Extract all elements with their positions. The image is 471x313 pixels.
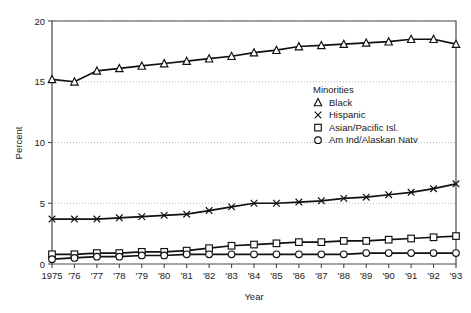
data-point-am-ind-alaskan-natv-11 [296, 251, 303, 258]
x-tick-label-9: '84 [248, 270, 260, 281]
x-tick-label-17: '92 [427, 270, 439, 281]
x-tick-label-16: '91 [405, 270, 417, 281]
data-point-asian-pacific-isl-13 [340, 238, 347, 245]
x-tick-label-14: '89 [360, 270, 372, 281]
x-tick-label-10: '85 [270, 270, 282, 281]
data-point-hispanic-legend [315, 112, 322, 119]
data-point-asian-pacific-isl-legend [315, 124, 322, 131]
data-point-am-ind-alaskan-natv-9 [251, 251, 258, 258]
x-tick-label-13: '88 [338, 270, 350, 281]
chart-figure: 05101520 1975'76'77'78'79'80'81'82'83'84… [0, 0, 471, 313]
data-point-am-ind-alaskan-natv-14 [363, 250, 370, 257]
x-tick-label-4: '79 [136, 270, 148, 281]
square-icon [315, 124, 322, 131]
x-tick-label-11: '86 [293, 270, 305, 281]
data-point-asian-pacific-isl-11 [296, 239, 303, 246]
x-tick-label-7: '82 [203, 270, 215, 281]
x-tick-label-18: '93 [450, 270, 462, 281]
legend-item-black[interactable]: Black [314, 97, 352, 108]
data-point-am-ind-alaskan-natv-17 [430, 250, 437, 257]
y-axis-title: Percent [13, 126, 24, 159]
data-point-am-ind-alaskan-natv-15 [385, 250, 392, 257]
series-black [48, 35, 459, 85]
legend-label-black: Black [329, 97, 352, 108]
data-point-am-ind-alaskan-natv-1 [71, 255, 78, 262]
legend-label-hispanic: Hispanic [329, 109, 366, 120]
x-tick-label-6: '81 [180, 270, 192, 281]
data-point-am-ind-alaskan-natv-12 [318, 251, 325, 258]
x-tick-label-12: '87 [315, 270, 327, 281]
y-tick-label-20: 20 [34, 16, 45, 27]
legend-title: Minorities [313, 84, 354, 95]
data-point-am-ind-alaskan-natv-2 [94, 253, 101, 260]
chart-legend: MinoritiesBlackHispanicAsian/Pacific Isl… [313, 84, 418, 145]
data-point-asian-pacific-isl-8 [228, 242, 235, 249]
data-point-asian-pacific-isl-17 [430, 234, 437, 241]
data-point-asian-pacific-isl-10 [273, 240, 280, 247]
x-tick-label-1: '76 [68, 270, 80, 281]
data-point-am-ind-alaskan-natv-0 [49, 256, 56, 263]
y-tick-label-10: 10 [34, 137, 45, 148]
data-point-am-ind-alaskan-natv-10 [273, 251, 280, 258]
series-line-hispanic [52, 184, 456, 219]
y-tick-label-15: 15 [34, 76, 45, 87]
data-point-am-ind-alaskan-natv-13 [340, 251, 347, 258]
triangle-icon [314, 99, 321, 106]
data-point-asian-pacific-isl-9 [251, 241, 258, 248]
data-point-asian-pacific-isl-18 [453, 233, 460, 240]
data-point-black-legend [314, 99, 321, 106]
series-line-black [52, 39, 456, 82]
data-point-asian-pacific-isl-15 [385, 236, 392, 243]
x-tick-label-3: '78 [113, 270, 125, 281]
data-point-asian-pacific-isl-16 [408, 235, 415, 242]
circle-icon [315, 137, 322, 144]
x-icon [315, 112, 322, 119]
data-point-am-ind-alaskan-natv-6 [183, 251, 190, 258]
data-point-am-ind-alaskan-natv-5 [161, 252, 168, 259]
x-tick-label-8: '83 [225, 270, 237, 281]
data-point-am-ind-alaskan-natv-8 [228, 251, 235, 258]
legend-label-am-ind-alaskan-natv: Am Ind/Alaskan Natv [329, 134, 418, 145]
x-axis-title: Year [244, 291, 263, 302]
legend-item-asian-pacific-isl[interactable]: Asian/Pacific Isl. [315, 122, 398, 133]
data-point-am-ind-alaskan-natv-4 [138, 252, 145, 259]
data-point-am-ind-alaskan-natv-18 [453, 250, 460, 257]
x-axis-ticks: 1975'76'77'78'79'80'81'82'83'84'85'86'87… [41, 264, 462, 281]
y-tick-label-5: 5 [40, 198, 45, 209]
data-point-asian-pacific-isl-14 [363, 238, 370, 245]
percent-minorities-line-chart: 05101520 1975'76'77'78'79'80'81'82'83'84… [0, 0, 471, 313]
x-tick-label-5: '80 [158, 270, 170, 281]
data-series [48, 35, 459, 262]
x-tick-label-2: '77 [91, 270, 103, 281]
legend-item-am-ind-alaskan-natv[interactable]: Am Ind/Alaskan Natv [315, 134, 418, 145]
data-point-am-ind-alaskan-natv-legend [315, 137, 322, 144]
y-axis-ticks: 05101520 [34, 16, 52, 270]
x-tick-label-0: 1975 [41, 270, 62, 281]
data-point-am-ind-alaskan-natv-16 [408, 250, 415, 257]
data-point-am-ind-alaskan-natv-3 [116, 253, 123, 260]
series-am-ind-alaskan-natv [49, 250, 460, 263]
data-point-am-ind-alaskan-natv-7 [206, 251, 213, 258]
legend-item-hispanic[interactable]: Hispanic [315, 109, 366, 120]
series-hispanic [49, 181, 460, 223]
y-tick-label-0: 0 [40, 259, 45, 270]
data-point-asian-pacific-isl-12 [318, 239, 325, 246]
x-tick-label-15: '90 [382, 270, 394, 281]
legend-label-asian-pacific-isl: Asian/Pacific Isl. [329, 122, 398, 133]
